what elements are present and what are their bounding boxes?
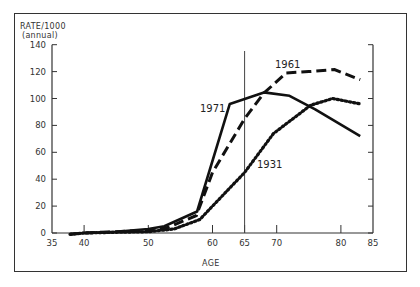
series-label-1931: 1931	[257, 159, 282, 170]
x-tick-label: 80	[335, 238, 346, 248]
x-tick-labels: 3540506065708085	[47, 238, 379, 248]
y-tick-label: 60	[35, 147, 46, 157]
y-tick-label: 120	[30, 67, 46, 77]
x-axis-title: AGE	[202, 259, 220, 268]
y-axis-title: RATE/1000	[20, 22, 66, 31]
y-tick-labels: 020406080100120140	[30, 40, 46, 238]
x-tick-label: 50	[143, 238, 154, 248]
y-tick-label: 100	[30, 94, 46, 104]
x-tick-label: 65	[239, 238, 250, 248]
y-tick-label: 20	[35, 201, 46, 211]
y-tick-label: 80	[35, 120, 46, 130]
y-tick-label: 40	[35, 174, 46, 184]
y-axis-subtitle: (annual)	[22, 31, 58, 40]
y-tick-label: 140	[30, 40, 46, 50]
line-chart: RATE/1000 (annual) AGE 02040608010012014…	[0, 0, 420, 287]
x-tick-label: 85	[368, 238, 379, 248]
x-tick-label: 40	[79, 238, 90, 248]
y-tick-label: 0	[41, 228, 46, 238]
x-tick-label: 60	[207, 238, 218, 248]
series-label-1961: 1961	[275, 59, 300, 70]
x-tick-label: 70	[271, 238, 282, 248]
series-label-1971: 1971	[200, 103, 225, 114]
x-tick-label: 35	[47, 238, 58, 248]
